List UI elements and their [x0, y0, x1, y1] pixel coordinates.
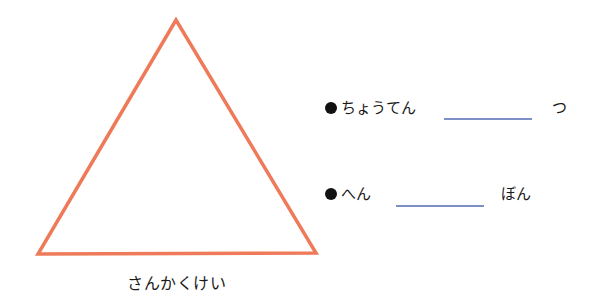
triangle-figure [0, 0, 596, 305]
bullet-icon [325, 102, 337, 114]
answer-blank-sides[interactable] [396, 205, 484, 207]
question-vertices: ちょうてん [325, 96, 416, 117]
unit-label: ぼん [501, 182, 531, 203]
question-label: ちょうてん [341, 99, 416, 117]
shape-caption: さんかくけい [127, 270, 226, 294]
question-sides: へん [325, 182, 371, 203]
answer-blank-vertices[interactable] [444, 118, 532, 120]
question-label: へん [341, 185, 371, 203]
bullet-icon [325, 188, 337, 200]
unit-label: つ [552, 96, 567, 117]
